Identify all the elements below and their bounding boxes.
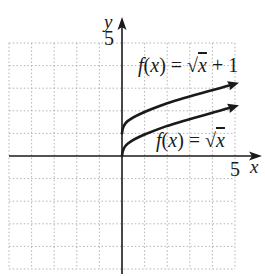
lower-curve-label: f(x) = √x	[156, 129, 225, 152]
upper-curve-label: f(x) = √x + 1	[138, 54, 238, 77]
x-tick-label: 5	[230, 158, 240, 181]
radicand: x	[216, 129, 225, 151]
radicand: x	[198, 54, 207, 76]
curve-sqrt-x-plus-1	[122, 86, 229, 134]
function-graph	[0, 0, 265, 276]
x-axis-label: x	[250, 156, 258, 178]
y-tick-label: 5	[104, 27, 114, 50]
